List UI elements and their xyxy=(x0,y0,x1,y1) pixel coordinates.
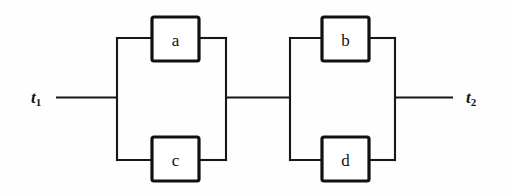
block-b[interactable]: b xyxy=(322,17,369,61)
input-terminal-label: t1 xyxy=(31,88,41,109)
reliability-block-diagram: a b c d t1 t2 xyxy=(0,0,510,196)
block-d[interactable]: d xyxy=(322,137,369,181)
output-terminal-subscript: 2 xyxy=(471,96,477,108)
block-a-label: a xyxy=(172,31,180,50)
block-c[interactable]: c xyxy=(152,137,199,181)
output-terminal-label: t2 xyxy=(466,88,477,109)
block-c-label: c xyxy=(172,151,180,170)
diagram-canvas: a b c d t1 t2 xyxy=(0,0,510,196)
input-terminal-subscript: 1 xyxy=(36,96,42,108)
block-d-label: d xyxy=(341,151,350,170)
block-a[interactable]: a xyxy=(152,17,199,61)
block-b-label: b xyxy=(341,31,350,50)
